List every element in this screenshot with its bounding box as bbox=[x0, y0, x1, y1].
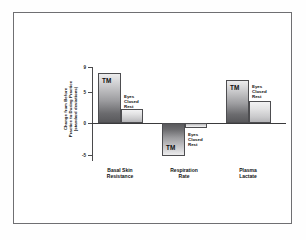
y-axis-title: Change from Before Practice to During Pr… bbox=[63, 59, 75, 159]
category-label-plasma-lactate: Plasma Lactate bbox=[222, 167, 274, 179]
figure-border: Change from Before Practice to During Pr… bbox=[13, 12, 292, 224]
category-label-respiration-rate: Respiration Rate bbox=[158, 167, 210, 179]
bar-eyes-closed-rest-plasma-lactate bbox=[249, 101, 271, 123]
figure-page: Change from Before Practice to During Pr… bbox=[0, 0, 306, 240]
y-tick-minus-5: -5 bbox=[88, 155, 93, 156]
y-axis-title-line-3: (standard deviations) bbox=[73, 59, 78, 159]
bar-group-basal-skin-resistance: TM Eyes Closed Rest Basal Skin Resistanc… bbox=[98, 61, 160, 191]
bar-label-tm-respiration: TM bbox=[166, 144, 176, 151]
y-axis-line bbox=[92, 67, 93, 161]
bar-label-ecr-basal: Eyes Closed Rest bbox=[124, 94, 139, 109]
bar-group-respiration-rate: TM Eyes Closed Rest Respiration Rate bbox=[162, 61, 224, 191]
y-tick-label-minus-5: -5 bbox=[82, 153, 86, 158]
bar-eyes-closed-rest-basal-skin-resistance bbox=[121, 109, 143, 123]
bar-label-ecr-respiration: Eyes Closed Rest bbox=[188, 132, 203, 147]
ecr-basal-line-3: Rest bbox=[124, 104, 139, 109]
category-label-basal-skin-resistance: Basal Skin Resistance bbox=[94, 167, 146, 179]
bar-label-tm-plasma: TM bbox=[230, 84, 240, 91]
y-tick-label-5: 5 bbox=[83, 90, 86, 95]
y-tick-9: 9 bbox=[88, 67, 93, 68]
bar-eyes-closed-rest-respiration-rate bbox=[185, 123, 207, 128]
y-tick-5: 5 bbox=[88, 92, 93, 93]
ecr-plasma-line-3: Rest bbox=[252, 94, 267, 99]
category-basal-line-2: Resistance bbox=[94, 173, 146, 179]
bar-group-plasma-lactate: TM Eyes Closed Rest Plasma Lactate bbox=[226, 61, 288, 191]
category-plasma-line-2: Lactate bbox=[222, 173, 274, 179]
chart-plot-area: Change from Before Practice to During Pr… bbox=[76, 61, 288, 191]
bar-tm-respiration-rate bbox=[162, 123, 185, 156]
y-tick-label-9: 9 bbox=[83, 65, 86, 70]
bar-label-ecr-plasma: Eyes Closed Rest bbox=[252, 84, 267, 99]
ecr-respiration-line-3: Rest bbox=[188, 142, 203, 147]
category-respiration-line-2: Rate bbox=[158, 173, 210, 179]
bar-label-tm-basal: TM bbox=[102, 77, 112, 84]
y-tick-label-0: 0 bbox=[83, 121, 86, 126]
